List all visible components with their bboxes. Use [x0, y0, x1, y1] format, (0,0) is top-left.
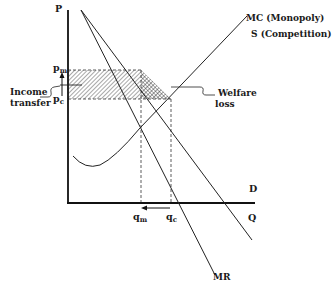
welfare-loss-label-line2: loss: [215, 99, 235, 110]
supply-label: S (Competition): [251, 29, 332, 40]
qc-subscript: c: [173, 215, 177, 224]
income-transfer-label-line1: Income: [10, 87, 48, 98]
pc-symbol: p: [53, 93, 60, 104]
welfare-loss-label-line1: Welfare: [218, 88, 257, 99]
pc-subscript: c: [60, 97, 64, 106]
mr-label: MR: [213, 272, 230, 283]
quantity-arrow-head-icon: [141, 206, 147, 211]
mc-label: MC (Monopoly): [246, 13, 324, 24]
qm-subscript: m: [140, 215, 147, 224]
demand-label: D: [249, 183, 257, 194]
pm-symbol: p: [53, 62, 60, 73]
welfare-loss-area-cross: [141, 70, 171, 99]
demand-curve: [81, 10, 252, 240]
pm-label: pm: [53, 62, 67, 76]
y-axis-label: P: [55, 3, 62, 14]
x-axis-label: Q: [248, 212, 256, 223]
qm-symbol: q: [133, 211, 140, 222]
qc-label: qc: [166, 211, 177, 225]
income-transfer-area: [68, 70, 141, 99]
pm-subscript: m: [60, 66, 67, 75]
income-transfer-label-line2: transfer: [10, 98, 51, 109]
marginal-revenue-curve: [81, 10, 215, 275]
qm-label: qm: [133, 211, 147, 225]
pc-label: pc: [53, 93, 64, 107]
qc-symbol: q: [166, 211, 173, 222]
